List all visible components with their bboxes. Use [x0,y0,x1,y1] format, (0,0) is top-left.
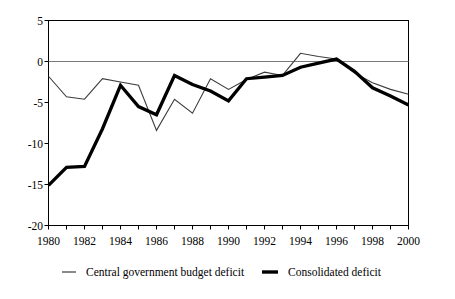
x-tick-label: 1980 [37,235,60,247]
y-tick-label: 5 [37,15,43,27]
x-tick-label: 1998 [361,235,384,247]
chart-legend: Central government budget deficit Consol… [62,266,382,279]
x-tick-label: 1994 [289,235,312,247]
legend-label-central-government-budget-deficit: Central government budget deficit [86,266,245,279]
x-tick-label: 2000 [397,235,420,247]
legend-label-consolidated-deficit: Consolidated deficit [288,266,382,278]
x-tick-label: 1996 [325,235,348,247]
x-tick-label: 1986 [145,235,168,247]
line-chart: 5 0 -5 -10 -15 -20 1980 1982 1984 1986 1… [0,0,455,299]
y-tick-label: -10 [28,138,44,150]
chart-figure: 5 0 -5 -10 -15 -20 1980 1982 1984 1986 1… [0,0,455,299]
x-tick-label: 1992 [253,235,276,247]
y-tick-label: -15 [28,179,44,191]
x-axis-ticks [49,226,409,230]
chart-background [0,0,455,299]
x-axis-tick-labels: 1980 1982 1984 1986 1988 1990 1992 1994 … [37,235,420,247]
y-tick-label: 0 [37,56,43,68]
y-tick-label: -5 [33,97,43,109]
x-tick-label: 1982 [73,235,96,247]
y-tick-label: -20 [28,220,44,232]
x-tick-label: 1988 [181,235,204,247]
x-tick-label: 1984 [109,235,132,247]
x-tick-label: 1990 [217,235,240,247]
